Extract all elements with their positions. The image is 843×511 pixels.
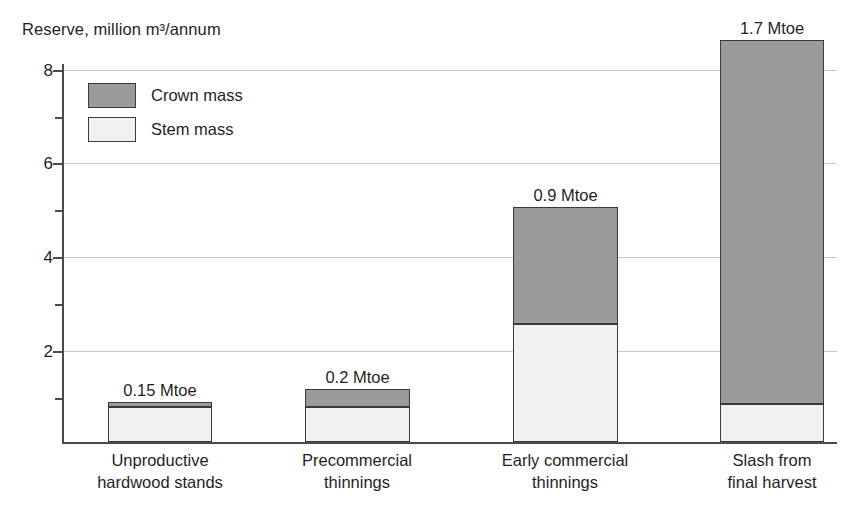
category-label-unproductive-hardwood-stands: Unproductive hardwood stands: [97, 450, 223, 494]
bar-value-label: 0.2 Mtoe: [325, 368, 389, 387]
bar-group-slash-from-final-harvest[interactable]: 1.7 Mtoe: [720, 40, 824, 442]
y-axis-line: [62, 64, 64, 444]
legend-swatch-crown-icon: [88, 83, 136, 108]
bar-chart: Reserve, million m³/annum 8 6 4 2: [0, 0, 843, 511]
category-label-line1: Precommercial: [302, 450, 412, 472]
legend: Crown mass Stem mass: [88, 78, 243, 146]
legend-label-crown: Crown mass: [151, 86, 243, 105]
bar-segment-stem[interactable]: [108, 407, 212, 442]
bar-segment-crown[interactable]: [720, 40, 824, 404]
category-label-line2: hardwood stands: [97, 472, 223, 494]
bar-segment-crown[interactable]: [513, 207, 618, 324]
x-axis-line: [62, 442, 837, 444]
category-label-early-commercial-thinnings: Early commercial thinnings: [502, 450, 629, 494]
bar-segment-stem[interactable]: [513, 324, 618, 442]
category-label-slash-from-final-harvest: Slash from final harvest: [728, 450, 817, 494]
category-label-line1: Early commercial: [502, 450, 629, 472]
bar-value-label: 1.7 Mtoe: [740, 19, 804, 38]
y-axis-title: Reserve, million m³/annum: [22, 20, 221, 39]
legend-item-crown-mass[interactable]: Crown mass: [88, 78, 243, 112]
bar-segment-stem[interactable]: [720, 404, 824, 442]
legend-item-stem-mass[interactable]: Stem mass: [88, 112, 243, 146]
legend-label-stem: Stem mass: [151, 120, 234, 139]
legend-swatch-stem-icon: [88, 117, 136, 142]
bar-value-label: 0.15 Mtoe: [123, 381, 196, 400]
bar-segment-stem[interactable]: [305, 407, 410, 442]
ytick-label-6: 6: [44, 155, 53, 172]
bar-group-precommercial-thinnings[interactable]: 0.2 Mtoe: [305, 389, 410, 442]
bar-value-label: 0.9 Mtoe: [533, 186, 597, 205]
ytick-label-8: 8: [44, 62, 53, 79]
category-label-line2: thinnings: [502, 472, 629, 494]
bar-group-early-commercial-thinnings[interactable]: 0.9 Mtoe: [513, 207, 618, 442]
category-label-line2: thinnings: [302, 472, 412, 494]
bar-group-unproductive-hardwood-stands[interactable]: 0.15 Mtoe: [108, 402, 212, 442]
category-label-line2: final harvest: [728, 472, 817, 494]
category-label-line1: Slash from: [728, 450, 817, 472]
ytick-label-4: 4: [44, 249, 53, 266]
bar-segment-crown[interactable]: [305, 389, 410, 407]
x-axis-category-labels: Unproductive hardwood stands Precommerci…: [62, 450, 837, 508]
category-label-precommercial-thinnings: Precommercial thinnings: [302, 450, 412, 494]
category-label-line1: Unproductive: [97, 450, 223, 472]
ytick-label-2: 2: [44, 343, 53, 360]
